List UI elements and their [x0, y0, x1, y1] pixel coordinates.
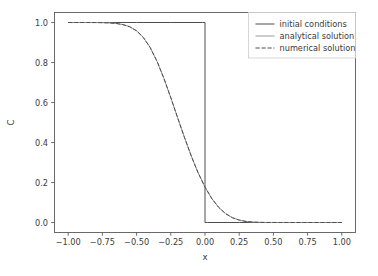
x-tick-label: −0.50 [124, 237, 149, 247]
y-tick-label: 0.6 [35, 98, 48, 108]
legend-label-initial-conditions: initial conditions [280, 19, 347, 29]
x-tick-label: 0.75 [298, 237, 316, 247]
x-tick-label: −0.75 [90, 237, 115, 247]
x-tick-label: −1.00 [56, 237, 81, 247]
figure-canvas: −1.00−0.75−0.50−0.250.000.250.500.751.00… [0, 0, 378, 276]
y-axis-label: C [6, 119, 16, 125]
chart-svg: −1.00−0.75−0.50−0.250.000.250.500.751.00… [0, 0, 378, 276]
y-tick-label: 0.8 [35, 58, 48, 68]
x-tick-label: 0.00 [196, 237, 214, 247]
x-tick-label: 0.50 [264, 237, 282, 247]
legend-label-numerical-solution: numerical solution [280, 43, 356, 53]
legend: initial conditionsanalytical solutionnum… [249, 13, 356, 59]
x-tick-label: −0.25 [158, 237, 183, 247]
x-tick-label: 1.00 [333, 237, 351, 247]
legend-label-analytical-solution: analytical solution [280, 31, 355, 41]
x-axis-label: x [202, 252, 207, 262]
y-tick-label: 0.4 [35, 138, 48, 148]
y-tick-label: 0.2 [35, 178, 48, 188]
y-tick-label: 0.0 [35, 218, 48, 228]
y-tick-label: 1.0 [35, 18, 48, 28]
x-tick-label: 0.25 [230, 237, 248, 247]
